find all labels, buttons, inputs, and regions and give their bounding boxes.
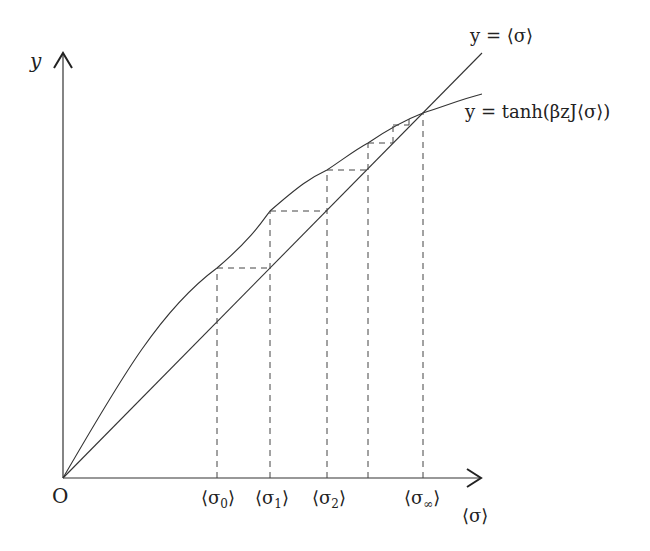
svg-text:⟨σ0⟩: ⟨σ0⟩ (201, 487, 235, 511)
tanh-curve-label: y = tanh(βzJ⟨σ⟩) (464, 101, 610, 122)
x-tick-sigma-0: ⟨σ0⟩ (201, 487, 235, 511)
origin-label: O (52, 484, 68, 508)
x-axis-label: ⟨σ⟩ (462, 505, 488, 526)
identity-line-label: y = ⟨σ⟩ (469, 25, 533, 46)
x-tick-sigma-infinity: ⟨σ∞⟩ (404, 487, 440, 511)
y-axis-label: y (29, 49, 42, 73)
x-tick-sigma-1: ⟨σ1⟩ (255, 487, 289, 511)
identity-line (63, 53, 482, 478)
cobweb-steps (217, 113, 423, 478)
tanh-curve (63, 94, 482, 478)
cobweb-diagram: y O ⟨σ⟩ y = ⟨σ⟩ y = tanh(βzJ⟨σ⟩) ⟨σ0⟩ ⟨σ… (0, 0, 650, 551)
svg-text:⟨σ1⟩: ⟨σ1⟩ (255, 487, 289, 511)
svg-text:⟨σ∞⟩: ⟨σ∞⟩ (404, 487, 440, 511)
svg-text:⟨σ2⟩: ⟨σ2⟩ (312, 487, 346, 511)
x-tick-sigma-2: ⟨σ2⟩ (312, 487, 346, 511)
